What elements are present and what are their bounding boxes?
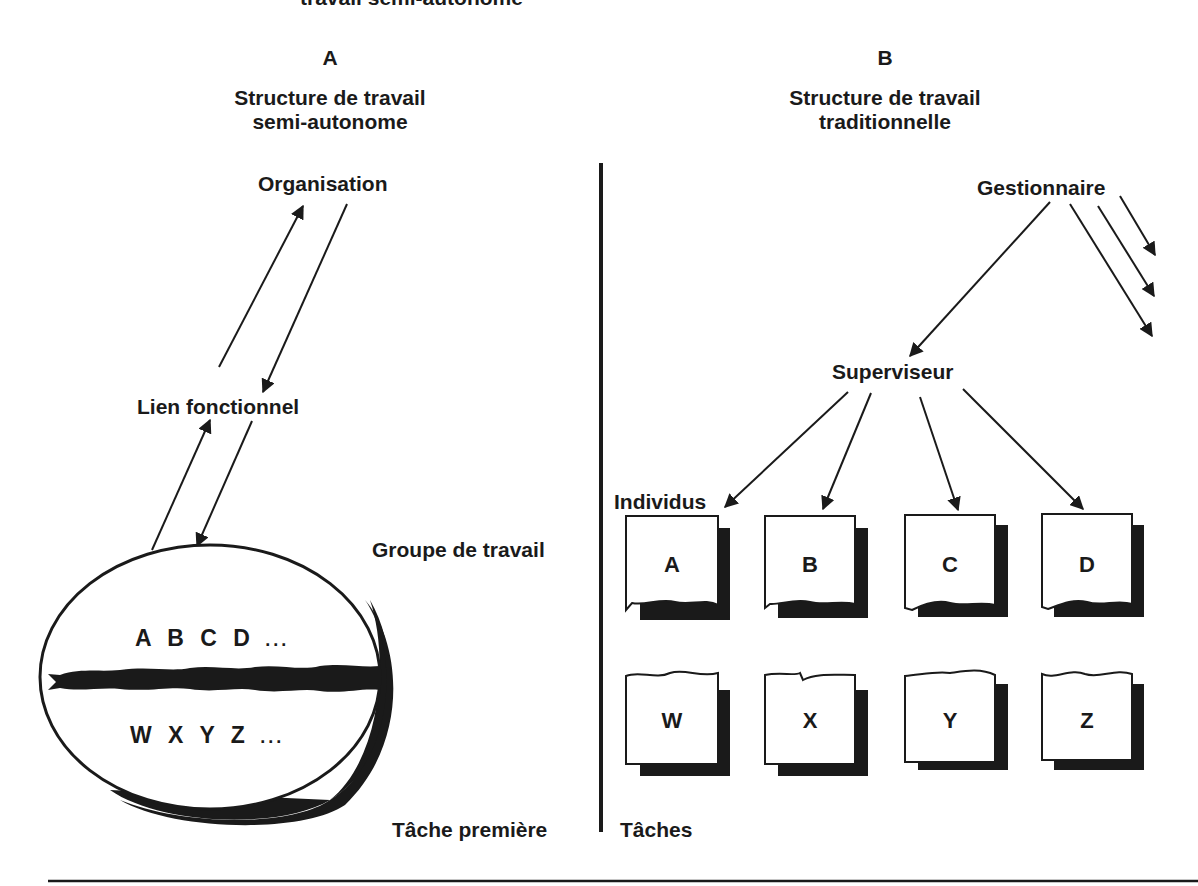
arrow-superviseur-to-a: [725, 392, 848, 507]
individual-label-c: C: [905, 552, 995, 578]
node-lien-fonctionnel: Lien fonctionnel: [137, 395, 299, 419]
arrow-superviseur-to-b: [823, 393, 871, 509]
individual-label-a: A: [627, 552, 717, 578]
ellipse-bottom-tasks: W X Y Z ...: [130, 722, 284, 749]
work-group-ellipse: [40, 545, 393, 825]
arrow-gestionnaire-offpage-1: [1070, 204, 1152, 336]
task-label-y: Y: [905, 708, 995, 734]
task-label-z: Z: [1042, 708, 1132, 734]
task-label-x: X: [765, 708, 855, 734]
arrow-gestionnaire-offpage-2: [1098, 206, 1154, 296]
task-label-w: W: [627, 708, 717, 734]
arrow-gestionnaire-to-superviseur: [910, 202, 1050, 356]
arrow-down-from-organisation: [263, 204, 347, 392]
diagram-graphics: [0, 0, 1198, 886]
individual-label-d: D: [1042, 552, 1132, 578]
node-groupe-de-travail: Groupe de travail: [372, 538, 545, 562]
arrow-down-from-lien: [197, 421, 252, 546]
node-tache-premiere: Tâche première: [392, 818, 547, 842]
ellipse-top-ellipsis: ...: [265, 630, 289, 650]
arrow-superviseur-to-c: [920, 397, 958, 510]
node-taches: Tâches: [620, 818, 692, 842]
arrow-up-to-lien: [152, 420, 210, 550]
individual-label-b: B: [765, 552, 855, 578]
ellipse-top-letters: A B C D: [135, 625, 255, 651]
arrow-superviseur-to-d: [963, 389, 1083, 509]
ellipse-bottom-ellipsis: ...: [260, 727, 284, 747]
arrow-gestionnaire-offpage-3: [1120, 196, 1155, 255]
node-individus: Individus: [614, 490, 706, 514]
node-organisation: Organisation: [258, 172, 388, 196]
ellipse-top-members: A B C D ...: [135, 625, 289, 652]
ellipse-bottom-letters: W X Y Z: [130, 722, 250, 748]
node-gestionnaire: Gestionnaire: [977, 176, 1105, 200]
node-superviseur: Superviseur: [832, 360, 953, 384]
arrow-up-to-organisation: [219, 206, 303, 367]
